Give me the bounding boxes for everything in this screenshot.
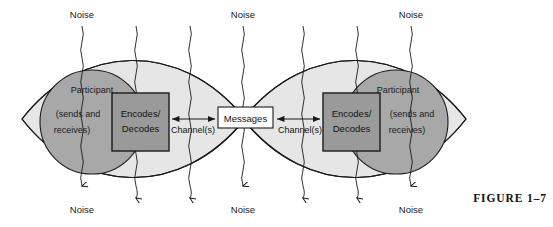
right-participant-detail-line-1: (sends and xyxy=(390,109,435,119)
left-channel-label: Channel(s) xyxy=(171,125,215,135)
left-encoder-label-line-1: Encodes/ xyxy=(121,108,161,119)
left-participant-role-label: Participant xyxy=(71,85,114,95)
right-participant-detail-line-2: receives) xyxy=(389,125,426,135)
noise-label-bottom-2: Noise xyxy=(231,204,255,215)
noise-line-4 xyxy=(242,26,245,186)
noise-label-bottom-1: Noise xyxy=(70,204,94,215)
noise-label-top-1: Noise xyxy=(70,9,94,20)
messages-label: Messages xyxy=(224,113,268,124)
noise-label-top-2: Noise xyxy=(231,9,255,20)
left-participant-detail-line-1: (sends and xyxy=(56,109,101,119)
left-encoder-label-line-2: Decodes xyxy=(122,123,160,134)
left-participant-detail-line-2: receives) xyxy=(54,125,91,135)
noise-label-bottom-3: Noise xyxy=(399,204,423,215)
right-encoder-decoder-box xyxy=(323,93,380,151)
right-encoder-label-line-2: Decodes xyxy=(333,123,371,134)
right-encoder-label-line-1: Encodes/ xyxy=(332,108,372,119)
figure-container: Participant (sends and receives) Partici… xyxy=(0,0,553,227)
figure-caption: FIGURE 1–7 xyxy=(473,192,547,204)
right-participant-role-label: Participant xyxy=(377,85,420,95)
transactional-communication-diagram: Participant (sends and receives) Partici… xyxy=(0,0,553,227)
right-channel-label: Channel(s) xyxy=(278,125,322,135)
noise-label-top-3: Noise xyxy=(399,9,423,20)
left-encoder-decoder-box xyxy=(112,93,169,151)
